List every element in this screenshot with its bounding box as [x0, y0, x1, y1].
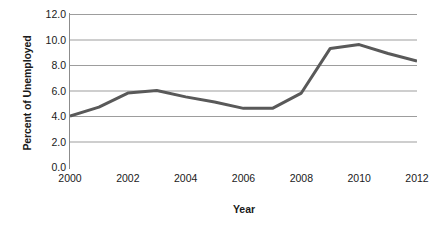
x-tick-label: 2012	[395, 172, 434, 184]
y-tick-label: 0.0	[38, 162, 66, 173]
gridlines	[70, 15, 417, 168]
plot-svg	[70, 14, 417, 167]
data-series-line	[70, 45, 417, 116]
y-tick-label: 4.0	[38, 111, 66, 122]
plot-area	[70, 14, 417, 167]
y-tick-label: 6.0	[38, 85, 66, 96]
x-tick-label: 2002	[106, 172, 150, 184]
y-axis-tick-labels: 0.02.04.06.08.010.012.0	[36, 0, 66, 226]
y-tick-label: 8.0	[38, 60, 66, 71]
x-tick-label: 2006	[222, 172, 266, 184]
y-tick-label: 12.0	[38, 9, 66, 20]
x-tick-label: 2004	[164, 172, 208, 184]
unemployment-line-chart: Percent of Unemployed 0.02.04.06.08.010.…	[0, 0, 434, 226]
y-tick-label: 2.0	[38, 136, 66, 147]
x-tick-label: 2000	[48, 172, 92, 184]
x-tick-label: 2010	[337, 172, 381, 184]
y-tick-label: 10.0	[38, 34, 66, 45]
x-tick-label: 2008	[279, 172, 323, 184]
x-axis-title: Year	[70, 203, 418, 215]
y-axis-title: Percent of Unemployed	[18, 8, 36, 178]
